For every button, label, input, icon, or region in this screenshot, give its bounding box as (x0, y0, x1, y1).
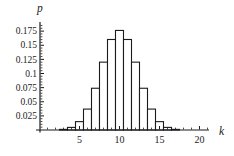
histogram-bar-k12 (132, 62, 140, 130)
x-tick-label: 15 (155, 134, 165, 145)
y-tick-label: 0.15 (20, 40, 37, 50)
y-tick-label: 0.1 (25, 69, 37, 79)
x-tick-label: 20 (195, 134, 205, 145)
probability-histogram-figure: 51015200.0250.050.0750.10.1250.150.175 p… (0, 0, 234, 156)
histogram-bar-k11 (124, 39, 132, 130)
y-tick-label: 0.05 (20, 97, 37, 107)
histogram-plot: 51015200.0250.050.0750.10.1250.150.175 (0, 0, 234, 156)
histogram-bar-k6 (84, 109, 92, 130)
x-tick-label: 5 (77, 134, 82, 145)
histogram-bar-k7 (92, 88, 100, 130)
histogram-bar-k13 (140, 88, 148, 130)
histogram-bar-k10 (116, 30, 124, 130)
x-axis-label: k (219, 126, 224, 138)
histogram-bar-k8 (100, 62, 108, 130)
y-tick-label: 0.125 (16, 55, 38, 65)
histogram-bar-k9 (108, 39, 116, 130)
y-axis-label: p (37, 3, 43, 15)
y-tick-label: 0.075 (16, 83, 38, 93)
x-tick-label: 10 (115, 134, 125, 145)
y-tick-label: 0.025 (16, 111, 38, 121)
histogram-bar-k14 (148, 109, 156, 130)
y-tick-label: 0.175 (16, 26, 38, 36)
